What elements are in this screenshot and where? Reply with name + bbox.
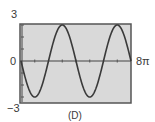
origin-label: 0: [10, 56, 16, 67]
chart: [0, 0, 155, 122]
plot-area: [20, 24, 131, 103]
y-max-label: 3: [11, 9, 17, 20]
x-max-label: 8π: [136, 56, 150, 67]
figure-caption: (D): [68, 110, 82, 121]
y-min-label: −3: [7, 103, 20, 114]
